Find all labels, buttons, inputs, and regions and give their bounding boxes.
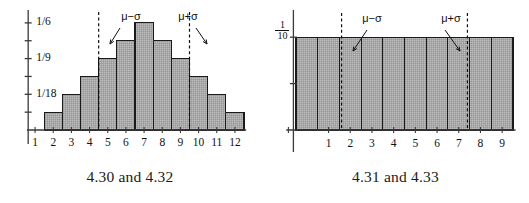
x-axis-tick-label: 7 — [456, 137, 462, 149]
bar — [470, 37, 492, 130]
x-axis-tick-label: 2 — [347, 137, 353, 149]
x-axis-tick-label: 1 — [326, 137, 332, 149]
bar — [135, 23, 153, 130]
y-axis-tick-label: 1/6 — [36, 15, 51, 27]
x-axis-tick-label: 11 — [211, 136, 222, 148]
x-axis-tick-label: 12 — [229, 136, 241, 148]
plot-area-left: 1234567891011121/61/91/18μ−σμ+σ — [0, 0, 260, 165]
x-axis-tick-label: 5 — [105, 136, 111, 148]
bar — [448, 37, 470, 130]
x-axis-tick-label: 4 — [87, 136, 93, 148]
bar — [81, 76, 99, 130]
y-axis-tick-label: 110 — [275, 20, 289, 41]
figure-dice-sum-distribution: 1234567891011121/61/91/18μ−σμ+σ 4.30 and… — [0, 0, 260, 203]
bar — [383, 37, 405, 130]
mu-plus-sigma-label: μ+σ — [178, 10, 198, 22]
bar — [296, 37, 318, 130]
sigma-arrow — [196, 28, 207, 44]
x-axis-tick-label: 10 — [193, 136, 205, 148]
bar — [153, 41, 171, 130]
bar — [491, 37, 513, 130]
bars-group — [44, 23, 244, 130]
y-axis-tick-label: 1/18 — [36, 87, 56, 99]
x-axis-tick-label: 2 — [50, 136, 56, 148]
bar — [361, 37, 383, 130]
x-axis-tick-label: 4 — [391, 137, 397, 149]
figure-uniform-distribution: 123456789110μ−σμ+σ 4.31 and 4.33 — [262, 0, 529, 203]
x-axis-tick-label: 3 — [369, 137, 375, 149]
bar — [318, 37, 340, 130]
fraction-denominator: 10 — [275, 30, 289, 41]
x-axis-tick-label: 8 — [478, 137, 484, 149]
bar — [190, 76, 208, 130]
bar — [99, 59, 117, 130]
x-axis-tick-label: 8 — [159, 136, 165, 148]
bar — [117, 41, 135, 130]
plot-area-right: 123456789110μ−σμ+σ — [262, 0, 529, 165]
bar — [339, 37, 361, 130]
x-axis-tick-label: 5 — [413, 137, 419, 149]
bar — [405, 37, 427, 130]
bar — [171, 59, 189, 130]
x-axis-tick-label: 6 — [434, 137, 440, 149]
bar — [62, 94, 80, 130]
figure-page: 1234567891011121/61/91/18μ−σμ+σ 4.30 and… — [0, 0, 529, 203]
x-axis-tick-label: 9 — [499, 137, 505, 149]
mu-minus-sigma-label: μ−σ — [362, 12, 382, 24]
x-axis-tick-label: 1 — [32, 136, 38, 148]
x-axis-tick-label: 7 — [141, 136, 147, 148]
mu-minus-sigma-label: μ−σ — [121, 10, 141, 22]
caption-left: 4.30 and 4.32 — [0, 168, 260, 186]
y-axis-tick-label: 1/9 — [36, 51, 51, 63]
x-axis-tick-label: 6 — [123, 136, 129, 148]
bars-group — [296, 37, 513, 130]
caption-right: 4.31 and 4.33 — [262, 168, 529, 186]
x-axis-tick-label: 9 — [178, 136, 184, 148]
mu-plus-sigma-label: μ+σ — [441, 12, 461, 24]
fraction-numerator: 1 — [275, 20, 289, 30]
bar — [426, 37, 448, 130]
bar — [208, 94, 226, 130]
x-axis-tick-label: 3 — [69, 136, 75, 148]
